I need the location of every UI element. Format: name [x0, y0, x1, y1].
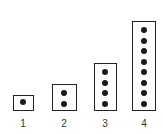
dot-icon [20, 99, 26, 105]
column-box-1 [13, 95, 34, 112]
dot-icon [141, 48, 147, 54]
dot-icon [141, 80, 147, 86]
dot-icon [102, 90, 108, 96]
dot-icon [141, 69, 147, 75]
dot-icon [61, 90, 67, 96]
dot-icon [141, 59, 147, 65]
dot-icon [141, 101, 147, 107]
dot-icon [141, 27, 147, 33]
column-label-1: 1 [13, 118, 33, 129]
column-box-2 [52, 84, 77, 111]
dot-icon [141, 90, 147, 96]
dot-icon [102, 69, 108, 75]
dot-icon [61, 101, 67, 107]
column-box-4 [132, 21, 156, 111]
column-label-4: 4 [134, 118, 154, 129]
column-label-2: 2 [54, 118, 74, 129]
dot-icon [141, 38, 147, 44]
column-label-3: 3 [95, 118, 115, 129]
column-box-3 [94, 63, 117, 111]
dot-icon [102, 80, 108, 86]
dot-icon [102, 101, 108, 107]
